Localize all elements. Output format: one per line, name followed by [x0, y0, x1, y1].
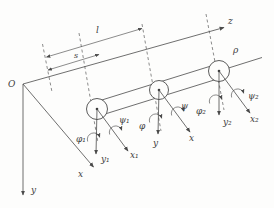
section-2-y-label: y: [152, 138, 159, 148]
origin-label: O: [8, 79, 16, 89]
diagram-svg: l s O z x y ρ y₁ x₁ φ₁ ψ₁: [0, 0, 274, 208]
section-3-x-arrow: [219, 71, 250, 113]
x-axis: [23, 84, 94, 167]
section-2-x-label: x: [189, 133, 194, 143]
z-axis: [23, 28, 224, 85]
section-1-x-label: x₁: [130, 150, 139, 160]
section-1-phi-label: φ₁: [76, 134, 86, 144]
shaft-with-disks-diagram: l s O z x y ρ y₁ x₁ φ₁ ψ₁: [0, 0, 274, 208]
section-3-psi-label: ψ₂: [248, 91, 259, 101]
section-1-psi-rotation-arrow: [109, 126, 121, 135]
section-1-frame: y₁ x₁ φ₁ ψ₁: [76, 109, 139, 164]
section-3-y-label: y₂: [222, 117, 232, 127]
dimension-lines: l s: [47, 25, 143, 70]
section-3-x-label: x₂: [250, 114, 259, 124]
dimension-l-label: l: [96, 25, 99, 35]
shaft-axis-label: ρ: [232, 45, 239, 55]
y-axis-label: y: [30, 185, 37, 195]
shaft: ρ: [97, 45, 262, 117]
section-2-frame: y x φ ψ: [139, 90, 194, 148]
section-3-phi-label: φ₂: [196, 106, 206, 116]
disks: [87, 61, 230, 120]
section-1-y-label: y₁: [100, 154, 110, 164]
section-dashed-lines: [43, 14, 225, 143]
section-line-disk1: [79, 33, 98, 143]
section-2-phi-label: φ: [139, 121, 146, 131]
section-3-phi-rotation-arrow: [209, 95, 221, 104]
section-line-origin: [43, 44, 53, 92]
section-2-phi-rotation-arrow: [149, 114, 161, 123]
section-1-psi-label: ψ₁: [119, 115, 130, 125]
section-3-frame: y₂ x₂ φ₂ ψ₂: [196, 71, 259, 127]
z-axis-label: z: [227, 16, 233, 26]
section-1-phi-rotation-arrow: [87, 133, 99, 142]
dimension-line-l: [47, 29, 143, 58]
section-2-psi-label: ψ: [181, 101, 189, 111]
x-axis-label: x: [78, 169, 83, 179]
section-2-x-arrow: [159, 90, 190, 132]
dimension-s-label: s: [74, 51, 78, 60]
